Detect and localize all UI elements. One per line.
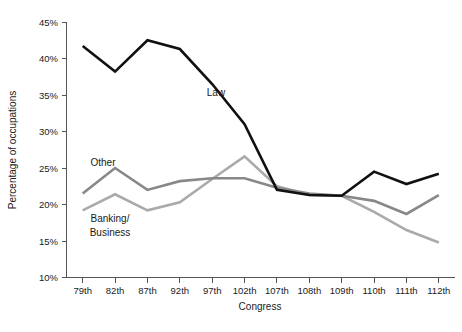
y-tick-label: 20% bbox=[39, 199, 59, 210]
axis-group bbox=[67, 22, 456, 278]
x-tick-group: 79th82th87th92th97th102th107th108th109th… bbox=[73, 278, 450, 297]
x-tick-label: 108th bbox=[297, 285, 321, 296]
y-tick-label: 40% bbox=[39, 53, 59, 64]
y-tick-label: 10% bbox=[39, 272, 59, 283]
y-tick-label: 35% bbox=[39, 90, 59, 101]
line-chart-container: 10%15%20%25%30%35%40%45% 79th82th87th92t… bbox=[0, 0, 462, 332]
x-tick-label: 112th bbox=[427, 285, 450, 296]
y-tick-group: 10%15%20%25%30%35%40%45% bbox=[39, 17, 67, 284]
x-axis-title: Congress bbox=[239, 301, 282, 312]
x-tick-label: 111th bbox=[395, 285, 417, 296]
x-tick-label: 110th bbox=[363, 285, 386, 296]
x-tick-label: 97th bbox=[203, 285, 222, 296]
x-tick-label: 102th bbox=[233, 285, 257, 296]
y-tick-label: 15% bbox=[39, 236, 59, 247]
x-tick-label: 92th bbox=[171, 285, 190, 296]
y-tick-label: 30% bbox=[39, 126, 59, 137]
y-tick-label: 45% bbox=[39, 17, 59, 28]
series-label-banking-business: Business bbox=[90, 227, 131, 238]
series-line-banking-business bbox=[83, 156, 439, 242]
series-label-other: Other bbox=[90, 157, 116, 168]
y-tick-label: 25% bbox=[39, 163, 59, 174]
x-tick-label: 87th bbox=[138, 285, 157, 296]
x-tick-label: 79th bbox=[73, 285, 92, 296]
series-annotation-group: LawOtherBanking/Business bbox=[90, 87, 226, 238]
x-tick-label: 107th bbox=[265, 285, 289, 296]
y-axis-title: Percentage of occupations bbox=[7, 91, 18, 209]
series-line-group bbox=[83, 40, 439, 242]
chart-canvas: 10%15%20%25%30%35%40%45% 79th82th87th92t… bbox=[0, 0, 462, 332]
x-tick-label: 109th bbox=[330, 285, 354, 296]
series-label-law: Law bbox=[207, 87, 226, 98]
x-tick-label: 82th bbox=[106, 285, 125, 296]
series-label-banking-business: Banking/ bbox=[91, 213, 130, 224]
